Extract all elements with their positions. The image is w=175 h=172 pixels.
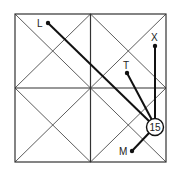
label-L: L: [37, 18, 43, 29]
label-M: M: [119, 146, 127, 157]
point-T: [125, 71, 129, 75]
point-dots: [46, 21, 157, 153]
point-L: [46, 21, 50, 25]
grid-diagram: L X T M 15: [0, 0, 175, 172]
connector-lines: [48, 23, 155, 151]
hub-node: 15: [147, 119, 164, 136]
line-L: [48, 23, 150, 122]
point-X: [153, 44, 157, 48]
label-X: X: [151, 32, 158, 43]
point-M: [130, 149, 134, 153]
label-T: T: [123, 60, 129, 71]
line-M: [132, 133, 149, 151]
hub-label: 15: [149, 122, 161, 133]
